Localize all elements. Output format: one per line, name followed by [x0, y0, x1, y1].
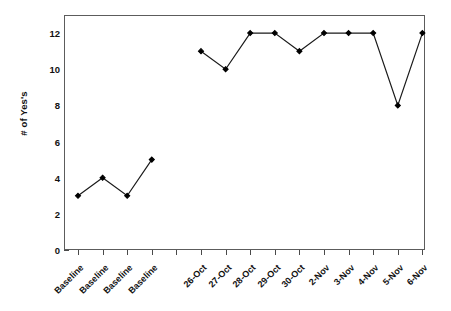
y-tick-label: 2	[38, 208, 60, 219]
y-axis-title: # of Yes's	[18, 79, 29, 149]
x-tick-mark	[422, 250, 423, 255]
y-tick-label: 12	[38, 28, 60, 39]
y-tick-label: 0	[38, 245, 60, 256]
series-line	[201, 33, 422, 105]
x-tick-mark	[152, 250, 153, 255]
line-chart: # of Yes's 024681012 BaselineBaselineBas…	[0, 0, 451, 311]
data-point-marker	[420, 31, 425, 36]
x-tick-mark	[176, 250, 177, 255]
y-tick-label: 6	[38, 136, 60, 147]
plot-series-layer	[64, 15, 425, 250]
data-point-marker	[371, 31, 376, 36]
y-tick-label: 8	[38, 100, 60, 111]
data-point-marker	[395, 103, 400, 108]
y-tick-label: 10	[38, 64, 60, 75]
x-tick-mark	[78, 250, 79, 255]
x-tick-mark	[226, 250, 227, 255]
x-tick-mark	[398, 250, 399, 255]
x-tick-mark	[201, 250, 202, 255]
x-tick-mark	[275, 250, 276, 255]
data-point-marker	[346, 31, 351, 36]
x-tick-mark	[103, 250, 104, 255]
x-tick-mark	[250, 250, 251, 255]
x-tick-mark	[349, 250, 350, 255]
x-tick-mark	[373, 250, 374, 255]
y-axis-tick-labels: 024681012	[34, 0, 60, 311]
y-tick-mark	[64, 250, 69, 251]
series-line	[78, 160, 152, 196]
x-tick-mark	[299, 250, 300, 255]
x-tick-mark	[127, 250, 128, 255]
x-tick-mark	[324, 250, 325, 255]
y-tick-label: 4	[38, 172, 60, 183]
